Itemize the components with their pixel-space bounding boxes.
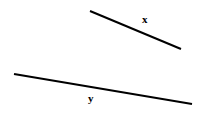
line-segment-y bbox=[14, 74, 192, 104]
line-segment-x-label: x bbox=[142, 14, 148, 25]
line-segment-y-label: y bbox=[88, 93, 94, 104]
line-segment-diagram: x y bbox=[0, 0, 199, 119]
diagram-canvas bbox=[0, 0, 199, 119]
line-segment-x bbox=[90, 11, 181, 49]
